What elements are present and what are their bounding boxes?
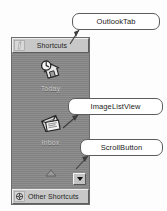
outlook-tab-shortcuts[interactable]: Shortcuts: [12, 38, 89, 53]
list-item-inbox-label: Inbox: [12, 138, 89, 147]
partial-item-icon: [38, 165, 64, 177]
outlook-tab-shortcuts-label: Shortcuts: [25, 41, 88, 50]
callout-scrollbutton: ScrollButton: [80, 139, 163, 156]
image-list-view[interactable]: Today Inbox: [12, 53, 89, 189]
callout-outlooktab-label: OutlookTab: [97, 17, 136, 26]
list-item-inbox[interactable]: Inbox: [12, 111, 89, 147]
inbox-envelope-icon: [38, 111, 64, 137]
callout-imagelistview: ImageListView: [68, 98, 163, 115]
outlook-bar-control: Shortcuts Today: [11, 37, 90, 205]
outlook-tab-other-shortcuts-label: Other Shortcuts: [25, 192, 88, 201]
callout-outlooktab: OutlookTab: [72, 13, 160, 30]
folder-globe-icon: [14, 191, 25, 202]
callout-scrollbutton-label: ScrollButton: [101, 143, 143, 152]
list-item-today-label: Today: [12, 84, 89, 93]
outlook-today-house-clock-icon: [38, 57, 64, 83]
callout-imagelistview-label: ImageListView: [91, 102, 141, 111]
scroll-down-button[interactable]: [73, 173, 86, 185]
outlook-tab-other-shortcuts[interactable]: Other Shortcuts: [12, 189, 89, 204]
shortcut-arrow-icon: [14, 40, 25, 51]
annotated-figure: Shortcuts Today: [0, 0, 167, 211]
list-item-today[interactable]: Today: [12, 57, 89, 93]
chevron-down-icon: [77, 177, 83, 181]
